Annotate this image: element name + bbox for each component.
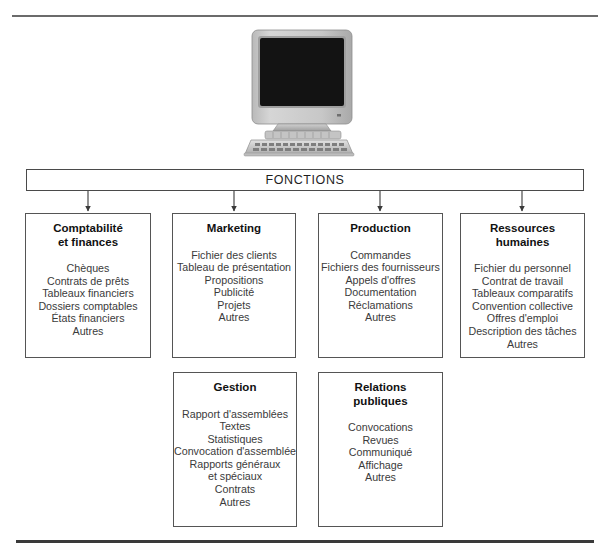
list-item: Autres (319, 311, 442, 324)
function-box-items: Fichier des clients Tableau de présentat… (173, 249, 295, 325)
list-item: Tableaux comparatifs (461, 287, 584, 300)
list-item: Documentation (319, 286, 442, 299)
list-item: Chèques (26, 262, 150, 275)
list-item: Revues (319, 434, 442, 447)
list-item: États financiers (26, 312, 150, 325)
list-item: Contrat de travail (461, 275, 584, 288)
list-item: Commandes (319, 249, 442, 262)
list-item: Autres (26, 325, 150, 338)
function-box-items: Chèques Contrats de prêts Tableaux finan… (26, 262, 150, 338)
list-item: Fichier du personnel (461, 262, 584, 275)
list-item: Affichage (319, 459, 442, 472)
list-item: Statistiques (174, 433, 296, 446)
list-item: Description des tâches (461, 325, 584, 338)
function-box-title: Ressources humaines (461, 222, 584, 249)
list-item: Fichiers des fournisseurs (319, 261, 442, 274)
function-box-marketing: Marketing Fichier des clients Tableau de… (172, 213, 296, 358)
list-item: Fichier des clients (173, 249, 295, 262)
list-item: Textes (174, 420, 296, 433)
function-box-title: Relations publiques (319, 381, 442, 408)
function-box-title: Marketing (173, 222, 295, 236)
function-box-gestion: Gestion Rapport d'assemblées Textes Stat… (173, 372, 297, 527)
list-item: Rapports généraux (174, 458, 296, 471)
list-item: Projets (173, 299, 295, 312)
list-item: Contrats de prêts (26, 275, 150, 288)
function-box-ressources-humaines: Ressources humaines Fichier du personnel… (460, 213, 585, 358)
function-box-title: Production (319, 222, 442, 236)
function-box-comptabilite-et-finances: Comptabilité et finances Chèques Contrat… (25, 213, 151, 358)
diagram-page: FONCTIONS Comptabilité et finances Chèqu… (0, 0, 610, 559)
list-item: Dossiers comptables (26, 300, 150, 313)
list-item: Réclamations (319, 299, 442, 312)
list-item: Communiqué (319, 446, 442, 459)
list-item: Autres (174, 496, 296, 509)
list-item: Autres (173, 311, 295, 324)
list-item: Rapport d'assemblées (174, 408, 296, 421)
list-item: Offres d'emploi (461, 312, 584, 325)
function-box-title: Comptabilité et finances (26, 222, 150, 249)
list-item: Publicité (173, 286, 295, 299)
fonctions-label: FONCTIONS (265, 173, 344, 187)
list-item: Contrats (174, 483, 296, 496)
list-item: Appels d'offres (319, 274, 442, 287)
function-box-items: Convocations Revues Communiqué Affichage… (319, 421, 442, 484)
list-item: Autres (319, 471, 442, 484)
fonctions-root-box: FONCTIONS (26, 169, 584, 191)
function-box-title: Gestion (174, 381, 296, 395)
function-box-items: Fichier du personnel Contrat de travail … (461, 262, 584, 350)
desktop-computer-illustration (243, 28, 365, 158)
list-item: et spéciaux (174, 470, 296, 483)
list-item: Convocations (319, 421, 442, 434)
function-box-items: Rapport d'assemblées Textes Statistiques… (174, 408, 296, 509)
function-box-relations-publiques: Relations publiques Convocations Revues … (318, 372, 443, 527)
list-item: Convocation d'assemblée (174, 445, 296, 458)
list-item: Tableaux financiers (26, 287, 150, 300)
list-item: Tableau de présentation (173, 261, 295, 274)
top-divider-rule (12, 15, 598, 17)
function-box-items: Commandes Fichiers des fournisseurs Appe… (319, 249, 442, 325)
list-item: Convention collective (461, 300, 584, 313)
function-box-production: Production Commandes Fichiers des fourni… (318, 213, 443, 358)
list-item: Propositions (173, 274, 295, 287)
list-item: Autres (461, 338, 584, 351)
bottom-divider-rule (16, 540, 594, 543)
